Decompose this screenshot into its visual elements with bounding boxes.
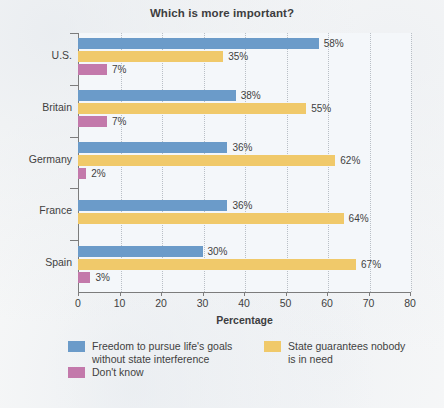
gridline-80 [411, 33, 412, 292]
legend-label-dontknow: Don't know [92, 366, 144, 379]
gridline-70 [370, 33, 371, 292]
bar-value-label: 36% [232, 200, 252, 211]
chart-legend: Freedom to pursue life's goals without s… [68, 340, 428, 392]
bar-value-label: 3% [95, 272, 109, 283]
category-label-germany: Germany [4, 153, 72, 165]
category-label-france: France [4, 204, 72, 216]
bar-value-label: 2% [91, 168, 105, 179]
bar-germany-freedom [78, 142, 227, 153]
x-tick-mark-50 [286, 292, 287, 296]
bar-britain-freedom [78, 90, 236, 101]
x-tick-mark-40 [244, 292, 245, 296]
bar-us-dontknow [78, 64, 107, 75]
x-tick-label-60: 60 [321, 297, 333, 309]
bar-germany-dontknow [78, 168, 86, 179]
category-label-britain: Britain [4, 101, 72, 113]
legend-label-state: State guarantees nobody is in need [288, 340, 405, 365]
x-tick-mark-0 [78, 292, 79, 296]
x-tick-label-20: 20 [155, 297, 167, 309]
bar-chart: Which is more important? U.S.BritainGerm… [0, 0, 444, 408]
bar-value-label: 7% [112, 64, 126, 75]
bar-france-state [78, 213, 344, 224]
x-tick-label-10: 10 [114, 297, 126, 309]
bar-value-label: 35% [228, 51, 248, 62]
x-tick-label-80: 80 [404, 297, 416, 309]
x-tick-mark-10 [120, 292, 121, 296]
legend-item-state: State guarantees nobody is in need [264, 340, 405, 365]
bar-value-label: 62% [340, 155, 360, 166]
x-tick-mark-30 [203, 292, 204, 296]
bar-france-freedom [78, 200, 227, 211]
bar-value-label: 7% [112, 116, 126, 127]
category-tick [70, 85, 78, 86]
bar-us-freedom [78, 38, 319, 49]
x-tick-mark-20 [161, 292, 162, 296]
bar-spain-state [78, 259, 356, 270]
legend-swatch-dontknow [68, 367, 85, 378]
bar-britain-state [78, 103, 306, 114]
x-axis-title: Percentage [78, 314, 411, 326]
bar-value-label: 30% [208, 246, 228, 257]
x-tick-label-30: 30 [197, 297, 209, 309]
bar-britain-dontknow [78, 116, 107, 127]
category-axis-labels: U.S.BritainGermanyFranceSpain [0, 0, 72, 300]
legend-swatch-freedom [68, 341, 85, 352]
bar-value-label: 36% [232, 142, 252, 153]
category-label-us: U.S. [4, 49, 72, 61]
legend-row-primary: Freedom to pursue life's goals without s… [68, 340, 428, 366]
bar-germany-state [78, 155, 335, 166]
bar-value-label: 67% [361, 259, 381, 270]
legend-swatch-state [264, 341, 281, 352]
bar-value-label: 38% [241, 90, 261, 101]
bar-value-label: 55% [311, 103, 331, 114]
legend-label-freedom: Freedom to pursue life's goals without s… [92, 340, 232, 365]
legend-item-freedom: Freedom to pursue life's goals without s… [68, 340, 232, 365]
category-tick [70, 240, 78, 241]
x-tick-mark-80 [410, 292, 411, 296]
bar-value-label: 64% [349, 213, 369, 224]
category-tick [70, 137, 78, 138]
legend-item-dontknow: Don't know [68, 366, 144, 379]
bar-us-state [78, 51, 223, 62]
x-tick-mark-70 [369, 292, 370, 296]
x-tick-label-40: 40 [238, 297, 250, 309]
bar-spain-dontknow [78, 272, 90, 283]
x-tick-mark-60 [327, 292, 328, 296]
category-tick [70, 188, 78, 189]
category-label-spain: Spain [4, 256, 72, 268]
bar-value-label: 58% [324, 38, 344, 49]
x-tick-label-0: 0 [75, 297, 81, 309]
legend-row-secondary: Don't know [68, 366, 428, 392]
x-tick-label-50: 50 [280, 297, 292, 309]
bar-spain-freedom [78, 246, 203, 257]
x-tick-label-70: 70 [363, 297, 375, 309]
category-tick [70, 33, 78, 34]
